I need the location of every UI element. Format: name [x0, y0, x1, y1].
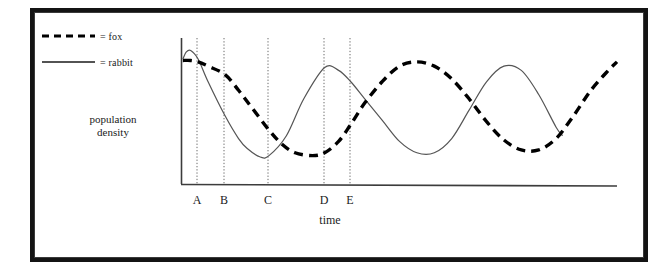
tick-label-d: D — [316, 193, 332, 208]
legend-label-fox: = fox — [100, 31, 122, 42]
tick-label-e: E — [342, 193, 358, 208]
legend-label-rabbit: = rabbit — [100, 57, 133, 68]
x-axis-title: time — [300, 213, 360, 228]
y-axis-title-line2: density — [97, 126, 129, 138]
tick-label-c: C — [260, 193, 276, 208]
y-axis-title-line1: population — [89, 113, 136, 125]
tick-label-b: B — [216, 193, 232, 208]
tick-label-a: A — [189, 193, 205, 208]
y-axis-title: population density — [58, 113, 168, 139]
figure-page: = fox = rabbit population density time A… — [0, 0, 672, 278]
